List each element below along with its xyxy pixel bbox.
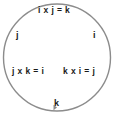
unit-label-i: i [93, 31, 96, 40]
unit-label-k: k [54, 99, 59, 108]
equation-i-cross-j: i x j = k [38, 6, 70, 15]
equation-k-cross-i: k x i = j [63, 67, 95, 76]
quaternion-circle-diagram: i x j = k j i j x k = i k x i = j k [0, 0, 114, 120]
unit-label-j: j [16, 31, 19, 40]
circle-outline [4, 4, 111, 111]
equation-j-cross-k: j x k = i [12, 67, 44, 76]
